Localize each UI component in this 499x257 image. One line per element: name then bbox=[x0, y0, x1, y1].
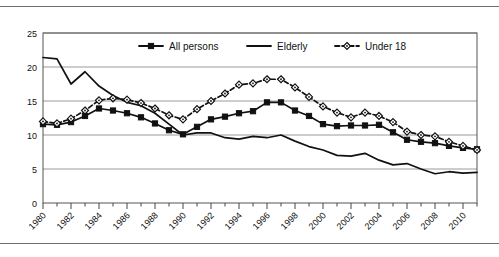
data-point-marker bbox=[124, 111, 129, 116]
x-axis-tick-label: 2008 bbox=[419, 210, 440, 231]
x-axis-tick-label: 1990 bbox=[167, 210, 188, 231]
data-point-center bbox=[434, 135, 436, 137]
data-point-marker bbox=[418, 139, 423, 144]
data-point-marker bbox=[138, 115, 143, 120]
data-point-marker bbox=[148, 43, 153, 48]
series-line bbox=[43, 79, 477, 150]
x-axis-tick-label: 1988 bbox=[139, 210, 160, 231]
data-point-center bbox=[210, 100, 212, 102]
data-point-center bbox=[154, 108, 156, 110]
data-point-marker bbox=[166, 128, 171, 133]
data-point-marker bbox=[152, 121, 157, 126]
x-axis-tick-label: 1994 bbox=[223, 210, 244, 231]
x-axis-tick-label: 1992 bbox=[195, 210, 216, 231]
data-point-center bbox=[350, 116, 352, 118]
x-axis-tick-label: 1998 bbox=[279, 210, 300, 231]
data-point-center bbox=[294, 87, 296, 89]
data-point-center bbox=[308, 96, 310, 98]
data-point-center bbox=[406, 131, 408, 133]
series-all-persons bbox=[40, 100, 479, 152]
x-axis-tick-label: 1980 bbox=[27, 210, 48, 231]
data-point-center bbox=[182, 118, 184, 120]
data-point-marker bbox=[334, 124, 339, 129]
data-point-center bbox=[98, 99, 100, 101]
legend-item-under-18: Under 18 bbox=[335, 41, 407, 52]
data-point-marker bbox=[236, 111, 241, 116]
y-axis-tick-label: 15 bbox=[27, 97, 37, 107]
data-point-center bbox=[266, 78, 268, 80]
y-axis-labels: 0510152025 bbox=[27, 29, 37, 209]
series-under-18 bbox=[40, 76, 481, 154]
x-axis-tick-label: 2004 bbox=[363, 210, 384, 231]
data-point-center bbox=[252, 82, 254, 84]
data-point-marker bbox=[194, 124, 199, 129]
data-point-center bbox=[420, 134, 422, 136]
legend-label: Elderly bbox=[277, 41, 308, 52]
data-point-marker bbox=[110, 108, 115, 113]
data-point-marker bbox=[306, 113, 311, 118]
x-axis-tick-label: 2000 bbox=[307, 210, 328, 231]
series-elderly bbox=[43, 57, 477, 173]
data-point-center bbox=[84, 110, 86, 112]
data-point-marker bbox=[320, 122, 325, 127]
series-line bbox=[43, 102, 477, 149]
data-point-center bbox=[238, 84, 240, 86]
data-point-marker bbox=[250, 109, 255, 114]
data-point-center bbox=[224, 93, 226, 95]
x-axis-tick-label: 2010 bbox=[447, 210, 468, 231]
x-axis-tick-label: 2006 bbox=[391, 210, 412, 231]
data-point-marker bbox=[390, 130, 395, 135]
data-point-center bbox=[364, 112, 366, 114]
legend-item-all-persons: All persons bbox=[139, 41, 218, 52]
x-axis-tick-label: 1982 bbox=[55, 210, 76, 231]
data-point-center bbox=[280, 78, 282, 80]
data-point-center bbox=[462, 145, 464, 147]
x-axis-tick-label: 1996 bbox=[251, 210, 272, 231]
chart-figure: 0510152025 19801982198419861988199019921… bbox=[0, 0, 499, 257]
data-point-marker bbox=[292, 108, 297, 113]
data-point-center bbox=[56, 123, 58, 125]
data-point-center bbox=[112, 97, 114, 99]
x-axis-tick-label: 1986 bbox=[111, 210, 132, 231]
x-axis-tickmarks bbox=[43, 203, 477, 209]
data-point-marker bbox=[348, 123, 353, 128]
chart-legend: All personsElderlyUnder 18 bbox=[139, 41, 407, 52]
data-point-center bbox=[392, 121, 394, 123]
data-series-layer bbox=[40, 57, 481, 173]
y-axis-tick-label: 25 bbox=[27, 29, 37, 39]
y-axis-tick-label: 20 bbox=[27, 63, 37, 73]
data-point-center bbox=[126, 99, 128, 101]
data-point-center bbox=[42, 121, 44, 123]
series-line bbox=[43, 57, 477, 173]
data-point-center bbox=[168, 114, 170, 116]
data-point-marker bbox=[404, 137, 409, 142]
legend-label: All persons bbox=[169, 41, 218, 52]
data-point-marker bbox=[208, 117, 213, 122]
data-point-marker bbox=[96, 106, 101, 111]
data-point-center bbox=[378, 115, 380, 117]
data-point-center bbox=[140, 102, 142, 104]
data-point-center bbox=[448, 141, 450, 143]
y-axis-tick-label: 5 bbox=[32, 165, 37, 175]
data-point-center bbox=[70, 118, 72, 120]
data-point-marker bbox=[376, 122, 381, 127]
data-point-center bbox=[336, 112, 338, 114]
data-point-marker bbox=[362, 123, 367, 128]
line-chart: 0510152025 19801982198419861988199019921… bbox=[0, 0, 499, 257]
gridlines bbox=[43, 33, 477, 169]
x-axis-tick-label: 2002 bbox=[335, 210, 356, 231]
data-point-center bbox=[322, 106, 324, 108]
x-axis-tick-label: 1984 bbox=[83, 210, 104, 231]
y-axis-tick-label: 10 bbox=[27, 131, 37, 141]
data-point-marker bbox=[432, 141, 437, 146]
data-point-center bbox=[196, 108, 198, 110]
x-axis-labels: 1980198219841986198819901992199419961998… bbox=[27, 210, 468, 231]
legend-label: Under 18 bbox=[365, 41, 407, 52]
data-point-marker bbox=[278, 100, 283, 105]
plot-frame bbox=[43, 33, 477, 203]
legend-item-elderly: Elderly bbox=[247, 41, 308, 52]
data-point-marker bbox=[222, 114, 227, 119]
plot-border bbox=[43, 33, 477, 203]
data-point-center bbox=[346, 45, 348, 47]
y-axis-tick-label: 0 bbox=[32, 199, 37, 209]
